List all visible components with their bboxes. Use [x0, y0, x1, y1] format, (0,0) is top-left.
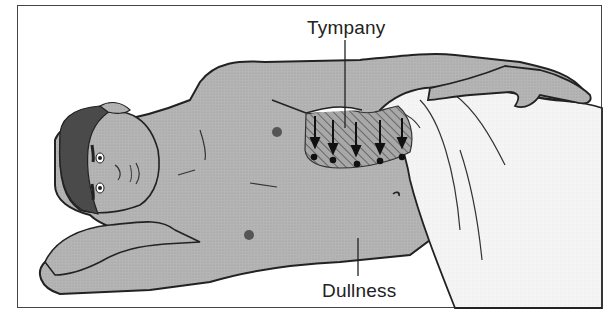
nipple-upper: [272, 127, 282, 137]
dullness-label: Dullness: [322, 280, 396, 302]
patient-illustration: [0, 0, 608, 314]
tympany-region: [305, 106, 412, 168]
nipple-lower: [244, 230, 254, 240]
tympany-label: Tympany: [307, 17, 386, 39]
